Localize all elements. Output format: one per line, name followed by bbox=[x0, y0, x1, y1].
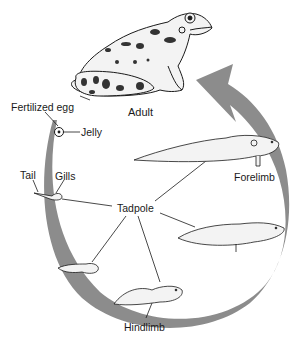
frog-life-cycle-diagram: Adult Fertilized egg Jelly Tail Gills Ta… bbox=[0, 0, 294, 347]
label-hindlimb: Hindlimb bbox=[124, 322, 165, 333]
label-tadpole: Tadpole bbox=[117, 203, 154, 214]
label-gills: Gills bbox=[55, 171, 75, 182]
egg-icon bbox=[55, 128, 64, 137]
label-fertilized-egg: Fertilized egg bbox=[11, 102, 74, 113]
label-adult: Adult bbox=[128, 107, 153, 118]
label-tail: Tail bbox=[20, 170, 36, 181]
label-jelly: Jelly bbox=[81, 127, 102, 138]
label-forelimb: Forelimb bbox=[234, 172, 275, 183]
